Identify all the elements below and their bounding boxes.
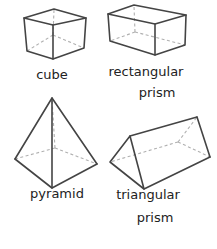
triangular-prism-label-line2: prism bbox=[137, 210, 174, 225]
cube-hidden-edges bbox=[27, 10, 84, 51]
pyramid-label: pyramid bbox=[30, 186, 84, 201]
cube-figure bbox=[24, 9, 86, 59]
solid-shapes-diagram: cube rectangular prism pyramid bbox=[0, 0, 217, 249]
pyramid-hidden-edges bbox=[15, 99, 97, 164]
cube-visible-edges bbox=[24, 9, 86, 59]
pyramid-figure bbox=[15, 98, 97, 188]
triangular-prism-visible-edges bbox=[110, 117, 210, 189]
rectangular-prism-label-line1: rectangular bbox=[109, 64, 185, 79]
rectangular-prism-figure bbox=[108, 5, 186, 55]
triangular-prism-hidden-edges bbox=[110, 117, 210, 162]
triangular-prism-figure bbox=[110, 117, 210, 189]
cube-label: cube bbox=[36, 67, 68, 82]
triangular-prism-label-line1: triangular bbox=[116, 187, 180, 202]
rectangular-prism-visible-edges bbox=[108, 5, 186, 55]
rectangular-prism-label-line2: prism bbox=[139, 85, 176, 100]
pyramid-visible-edges bbox=[15, 98, 97, 188]
